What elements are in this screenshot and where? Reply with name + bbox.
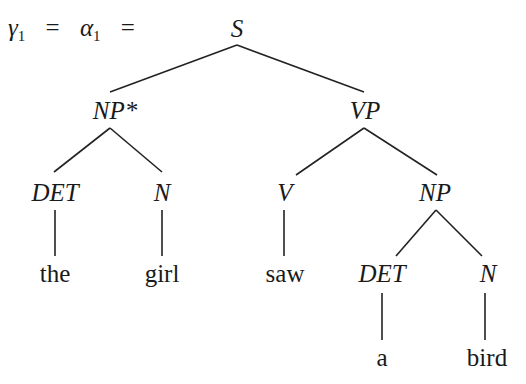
edge-vp-v [296, 128, 364, 175]
node-v: V [277, 180, 292, 205]
node-n-2: N [480, 261, 497, 286]
alpha-symbol: α [80, 14, 93, 41]
node-np-2: NP [419, 180, 451, 205]
gamma-symbol: γ [8, 14, 18, 41]
edge-s-npstar [110, 45, 237, 92]
gamma-subscript: 1 [18, 28, 26, 44]
equals-sign-2: = [121, 14, 135, 42]
edge-np-n [436, 210, 482, 256]
node-s: S [231, 16, 244, 41]
alpha-subscript: 1 [93, 28, 101, 44]
tree-equation: γ1 = α1 = [8, 14, 149, 45]
equals-sign-1: = [46, 14, 60, 42]
node-vp: VP [350, 98, 381, 123]
edge-npstar-n [110, 128, 162, 172]
edge-np-det [396, 210, 436, 256]
edge-s-vp [237, 45, 364, 92]
leaf-the: the [40, 261, 71, 286]
node-n-1: N [154, 180, 171, 205]
node-np-star: NP* [93, 98, 137, 123]
edge-vp-np [364, 128, 437, 175]
edge-npstar-det [54, 128, 110, 172]
leaf-a: a [376, 345, 387, 370]
leaf-bird: bird [467, 345, 507, 370]
node-det-1: DET [31, 180, 78, 205]
leaf-saw: saw [266, 261, 305, 286]
leaf-girl: girl [145, 261, 180, 286]
node-det-2: DET [358, 261, 405, 286]
